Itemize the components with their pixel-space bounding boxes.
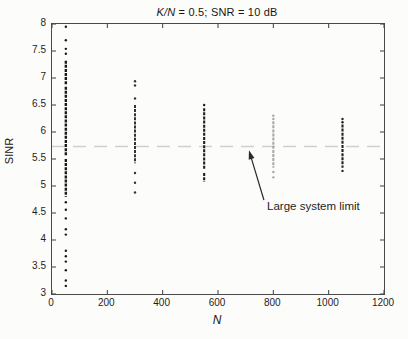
annotation-large-system-limit: Large system limit	[267, 200, 360, 212]
chart-title-ratio: K/N	[156, 6, 175, 18]
y-tick-label-3: 3	[40, 287, 46, 299]
y-tick-label-3-5: 3.5	[32, 260, 46, 272]
y-axis-label: SINR	[3, 131, 16, 171]
scatter-cluster-N800	[272, 115, 274, 179]
x-tick-label-0: 0	[48, 297, 54, 309]
x-tick-label-1000: 1000	[317, 297, 339, 309]
scatter-cluster-N50	[65, 26, 67, 288]
y-tick-label-4-5: 4.5	[32, 206, 46, 218]
x-tick-label-1200: 1200	[372, 297, 394, 309]
x-tick-label-200: 200	[98, 297, 115, 309]
figure: K/N = 0.5; SNR = 10 dB N SINR Large syst…	[0, 0, 408, 339]
y-tick-label-7-5: 7.5	[32, 44, 46, 56]
x-tick-label-400: 400	[153, 297, 170, 309]
y-tick-label-6-5: 6.5	[32, 98, 46, 110]
chart-title: K/N = 0.5; SNR = 10 dB	[51, 6, 383, 18]
annotation-arrow	[249, 150, 264, 200]
y-tick-label-5-5: 5.5	[32, 152, 46, 164]
y-tick-label-6: 6	[40, 125, 46, 137]
axis-ticks	[52, 24, 384, 294]
x-tick-label-800: 800	[264, 297, 281, 309]
x-axis-label: N	[51, 313, 383, 327]
chart-canvas	[52, 24, 384, 294]
x-tick-label-600: 600	[209, 297, 226, 309]
y-tick-label-8: 8	[40, 17, 46, 29]
scatter-cluster-N1050	[341, 118, 343, 172]
scatter-cluster-N300	[134, 80, 136, 194]
scatter-cluster-N550	[203, 104, 205, 182]
y-tick-label-7: 7	[40, 71, 46, 83]
chart-title-rest: = 0.5; SNR = 10 dB	[175, 6, 277, 18]
y-tick-label-4: 4	[40, 233, 46, 245]
plot-area	[51, 23, 385, 295]
y-tick-label-5: 5	[40, 179, 46, 191]
